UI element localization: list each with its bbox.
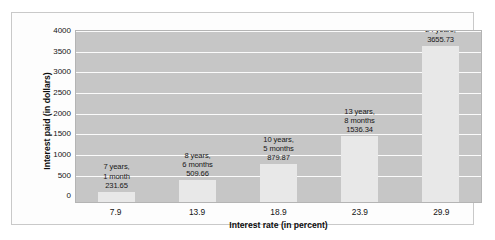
y-tick-label: 3000 xyxy=(53,68,71,76)
gridline xyxy=(76,52,481,53)
bar xyxy=(98,192,135,202)
y-tick-label: 500 xyxy=(58,172,71,180)
y-tick-label: 1500 xyxy=(53,130,71,138)
bar-annotation-line: 6 months xyxy=(157,160,238,169)
bar xyxy=(422,46,459,202)
bar-chart-figure: Interest paid (in dollars) 4000 3500 300… xyxy=(0,0,495,240)
x-tick-label: 13.9 xyxy=(156,207,237,217)
bar-annotation-line: 879.87 xyxy=(238,153,319,162)
x-tick-label: 18.9 xyxy=(238,207,319,217)
bar-annotation: 13 years, 8 months 1536.34 xyxy=(319,107,400,135)
y-tick-label: 3500 xyxy=(53,48,71,56)
y-tick-label: 2000 xyxy=(53,110,71,118)
bar-annotation-line: 1 month xyxy=(76,172,157,181)
bar-annotation-line: 7 years, xyxy=(76,162,157,171)
x-tick-label: 29.9 xyxy=(401,207,482,217)
bar-annotation: 7 years, 1 month 231.65 xyxy=(76,162,157,190)
y-tick-label: 2500 xyxy=(53,89,71,97)
y-tick-label: 4000 xyxy=(53,27,71,35)
gridline xyxy=(76,72,481,73)
bar xyxy=(260,164,297,202)
bar-annotation-line: 3655.73 xyxy=(400,35,481,44)
bar-annotation: 10 years, 5 months 879.87 xyxy=(238,135,319,163)
x-tick-label: 23.9 xyxy=(319,207,400,217)
bar-annotation-line: 8 years, xyxy=(157,151,238,160)
y-tick-label: 1000 xyxy=(53,151,71,159)
bar-annotation-line: 13 years, xyxy=(319,107,400,116)
y-tick-label: 0 xyxy=(67,192,71,200)
gridline xyxy=(76,114,481,115)
bar-annotation-line: 1536.34 xyxy=(319,125,400,134)
bar-annotation: 24 years, 3655.73 xyxy=(400,30,481,44)
bar-annotation-line: 509.66 xyxy=(157,169,238,178)
chart-card: Interest paid (in dollars) 4000 3500 300… xyxy=(11,12,474,225)
x-axis-label: Interest rate (in percent) xyxy=(75,220,482,230)
x-tick-label: 7.9 xyxy=(75,207,156,217)
bar xyxy=(341,136,378,202)
bar xyxy=(179,180,216,202)
y-axis-ticks: 4000 3500 3000 2500 2000 1500 1000 500 0 xyxy=(32,30,71,203)
x-axis-ticks: 7.9 13.9 18.9 23.9 29.9 xyxy=(75,207,482,219)
bar-annotation-line: 10 years, xyxy=(238,135,319,144)
plot-area: 7 years, 1 month 231.65 8 years, 6 month… xyxy=(75,30,482,203)
bar-annotation-line: 8 months xyxy=(319,116,400,125)
gridline xyxy=(76,93,481,94)
bar-annotation-line: 5 months xyxy=(238,144,319,153)
bar-annotation: 8 years, 6 months 509.66 xyxy=(157,151,238,179)
bar-annotation-line: 231.65 xyxy=(76,181,157,190)
